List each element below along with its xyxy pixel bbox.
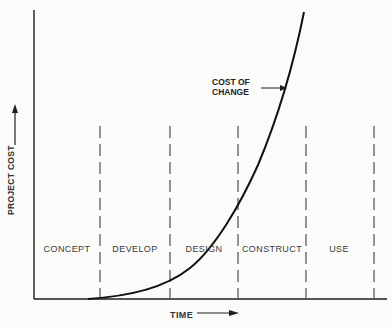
cost-of-change-annotation: COST OF CHANGE xyxy=(212,77,250,97)
y-label-arrowhead-icon xyxy=(12,104,18,113)
phase-label-use: USE xyxy=(329,244,349,254)
diagram-canvas xyxy=(0,0,392,328)
y-axis-label: PROJECT COST xyxy=(6,145,16,215)
annotation-line-2: CHANGE xyxy=(212,87,250,97)
cost-of-change-curve xyxy=(88,12,304,299)
annotation-line-1: COST OF xyxy=(212,77,250,87)
x-axis-label: TIME xyxy=(170,310,193,320)
phase-label-construct: CONSTRUCT xyxy=(242,244,302,254)
phase-label-design: DESIGN xyxy=(186,244,223,254)
phase-label-develop: DEVELOP xyxy=(112,244,157,254)
x-label-arrowhead-icon xyxy=(229,310,239,316)
phase-dividers xyxy=(100,126,374,298)
phase-label-concept: CONCEPT xyxy=(44,244,91,254)
